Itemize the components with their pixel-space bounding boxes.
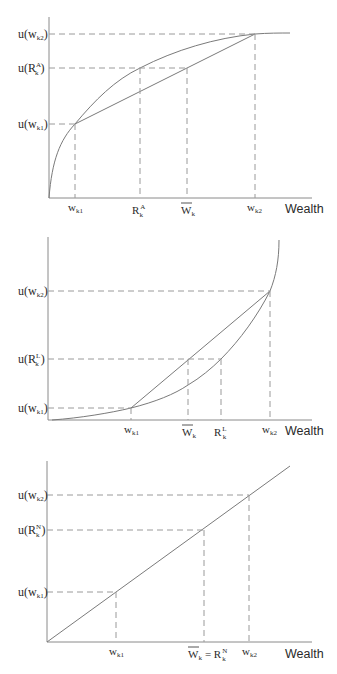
label-u-wk2: u(wk2) [18,488,48,503]
label-u-wk1: u(wk1) [18,585,48,600]
chord-line [75,34,255,124]
label-R: RLk [214,425,227,441]
utility-diagram: u(wk2) u(RAk) u(wk1) wk1 RAk Wk wk2 Weal… [0,0,337,674]
panel-risk-neutral: u(wk2) u(RNk) u(wk1) wk1 Wk= RNk wk2 Wea… [18,461,324,663]
x-axis-label: Wealth [285,647,324,661]
label-u-wk2: u(wk2) [18,284,48,299]
label-wk1: wk1 [124,423,139,437]
svg-text:Wk= RNk: Wk= RNk [188,647,227,663]
label-W-eq-R: Wk= RNk [188,647,227,663]
label-R: RAk [132,203,145,219]
label-W: Wk [181,203,195,218]
panel-risk-averse: u(wk2) u(RAk) u(wk1) wk1 RAk Wk wk2 Weal… [18,17,324,219]
label-u-R: u(RAk) [18,61,45,77]
label-wk2: wk2 [247,201,262,215]
label-wk1: wk1 [68,201,83,215]
label-u-wk1: u(wk1) [18,117,48,132]
panel-risk-lover: u(wk2) u(RLk) u(wk1) wk1 Wk RLk wk2 Weal… [18,237,324,441]
x-axis-label: Wealth [285,202,324,216]
label-wk2: wk2 [262,423,277,437]
utility-line [47,466,290,642]
svg-text:Wk: Wk [181,204,195,218]
utility-curve [52,240,279,420]
label-u-R: u(RLk) [18,352,45,368]
label-u-R: u(RNk) [18,523,46,539]
chord-line [131,291,270,408]
label-W: Wk [182,425,196,440]
label-wk2: wk2 [242,645,257,659]
label-u-wk1: u(wk1) [18,401,48,416]
label-u-wk2: u(wk2) [18,27,48,42]
label-wk1: wk1 [109,645,124,659]
x-axis-label: Wealth [285,424,324,438]
svg-text:Wk: Wk [182,426,196,440]
utility-curve [49,33,290,198]
